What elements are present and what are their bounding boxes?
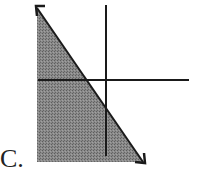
graph-diagram	[0, 0, 198, 179]
